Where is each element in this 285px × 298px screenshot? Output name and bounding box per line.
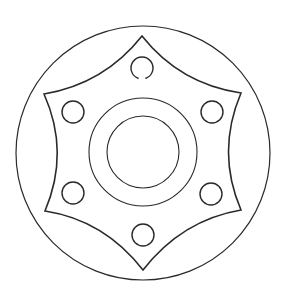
- plate-drawing: [0, 0, 285, 298]
- bolt-hole-top: [131, 57, 153, 78]
- center-rings: [89, 98, 197, 206]
- bolt-hole-lower-right: [200, 183, 222, 205]
- bolt-hole-upper-right: [201, 101, 223, 123]
- outer-circle: [16, 26, 270, 280]
- bolt-hole-upper-left: [62, 101, 84, 123]
- bolt-hole-lower-left: [62, 182, 84, 204]
- bolt-hole-bottom: [132, 224, 154, 246]
- six-point-star-outline: [44, 36, 241, 270]
- outer-ring: [89, 98, 197, 206]
- bolt-holes: [62, 57, 223, 246]
- inner-ring: [107, 116, 179, 188]
- diagram-canvas: [0, 0, 285, 298]
